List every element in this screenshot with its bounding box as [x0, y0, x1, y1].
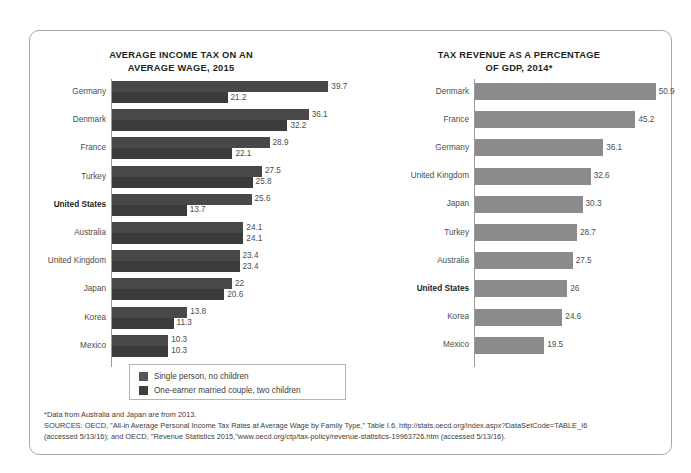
bar — [112, 148, 232, 159]
bar — [475, 224, 577, 241]
plot-area-tax-revenue: Denmark50.9France45.2Germany36.1United K… — [394, 79, 664, 367]
bar — [475, 196, 583, 213]
bar — [112, 278, 232, 289]
bar-value-label: 27.5 — [576, 256, 592, 265]
bar — [475, 83, 656, 100]
category-label: United Kingdom — [394, 171, 469, 180]
category-label: Germany — [394, 143, 469, 152]
chart-title-line-1: AVERAGE INCOME TAX ON AN — [36, 49, 326, 62]
legend-item: One-earner married couple, two children — [139, 384, 345, 397]
bar — [475, 252, 573, 269]
bar — [112, 81, 328, 92]
category-label: Germany — [40, 87, 106, 96]
category-label: France — [394, 115, 469, 124]
bar-value-label: 22.1 — [235, 149, 251, 158]
plot-area-income-tax: Germany39.721.2Denmark36.132.2France28.9… — [40, 79, 360, 367]
category-label: France — [40, 143, 106, 152]
bar — [112, 120, 287, 131]
chart-row: United Kingdom23.423.4 — [40, 250, 360, 272]
bar-value-label: 20.6 — [227, 290, 243, 299]
bar — [475, 168, 591, 185]
category-label: Japan — [394, 199, 469, 208]
bar-value-label: 28.9 — [273, 138, 289, 147]
bar-value-label: 22 — [235, 279, 244, 288]
chart-title-line-2: OF GDP, 2014* — [384, 62, 654, 75]
chart-notes: *Data from Australia and Japan are from … — [44, 409, 661, 442]
chart-title-tax-revenue: TAX REVENUE AS A PERCENTAGE OF GDP, 2014… — [384, 49, 654, 74]
bar-value-label: 24.6 — [565, 312, 581, 321]
bar-value-label: 36.1 — [312, 110, 328, 119]
bar-value-label: 13.8 — [190, 307, 206, 316]
bar-value-label: 36.1 — [606, 143, 622, 152]
bar-value-label: 32.2 — [290, 121, 306, 130]
bar — [475, 139, 603, 156]
chart-row: United States26 — [394, 280, 664, 297]
category-label: Australia — [394, 256, 469, 265]
sources-line-2: (accessed 5/13/16); and OECD, "Revenue S… — [44, 431, 661, 442]
legend-swatch-icon — [139, 386, 148, 395]
bar — [112, 222, 243, 233]
bar-value-label: 10.3 — [171, 346, 187, 355]
legend-item: Single person, no children — [139, 370, 345, 383]
bar — [475, 337, 544, 354]
category-label: Korea — [40, 313, 106, 322]
bar-value-label: 11.3 — [177, 318, 192, 327]
chart-title-line-1: TAX REVENUE AS A PERCENTAGE — [384, 49, 654, 62]
chart-title-income-tax: AVERAGE INCOME TAX ON AN AVERAGE WAGE, 2… — [36, 49, 326, 74]
bar-value-label: 27.5 — [265, 166, 281, 175]
chart-row: Denmark36.132.2 — [40, 109, 360, 131]
bar — [475, 111, 635, 128]
category-label: Denmark — [40, 115, 106, 124]
bar-value-label: 21.2 — [231, 93, 247, 102]
bar-value-label: 23.4 — [243, 262, 259, 271]
chart-row: France28.922.1 — [40, 137, 360, 159]
bar — [112, 137, 270, 148]
bar — [112, 109, 309, 120]
category-label: United Kingdom — [40, 256, 106, 265]
bar — [112, 261, 240, 272]
bar-value-label: 50.9 — [659, 87, 675, 96]
bar — [112, 177, 253, 188]
bar — [112, 205, 187, 216]
bar-value-label: 32.6 — [594, 171, 610, 180]
chart-row: Turkey27.525.8 — [40, 166, 360, 188]
bar — [112, 318, 174, 329]
bar-value-label: 10.3 — [171, 335, 187, 344]
bar-value-label: 19.5 — [547, 340, 563, 349]
chart-row: Germany36.1 — [394, 139, 664, 156]
bar — [112, 166, 262, 177]
chart-row: France45.2 — [394, 111, 664, 128]
bar-value-label: 23.4 — [243, 251, 259, 260]
category-label: Turkey — [40, 172, 106, 181]
legend-item-label: One-earner married couple, two children — [154, 386, 301, 395]
chart-row: Japan30.3 — [394, 196, 664, 213]
bar — [112, 250, 240, 261]
bar-value-label: 26 — [570, 284, 579, 293]
category-label: Australia — [40, 228, 106, 237]
footnote: *Data from Australia and Japan are from … — [44, 409, 661, 420]
chart-row: Germany39.721.2 — [40, 81, 360, 103]
chart-row: Korea13.811.3 — [40, 307, 360, 329]
bar-value-label: 25.6 — [255, 194, 271, 203]
category-label: Mexico — [40, 341, 106, 350]
legend-swatch-icon — [139, 372, 148, 381]
chart-row: Korea24.6 — [394, 309, 664, 326]
chart-row: Australia24.124.1 — [40, 222, 360, 244]
chart-legend: Single person, no children One-earner ma… — [129, 364, 346, 400]
bar-value-label: 25.8 — [256, 177, 272, 186]
figure-frame: AVERAGE INCOME TAX ON AN AVERAGE WAGE, 2… — [29, 30, 672, 455]
bar-value-label: 24.1 — [246, 223, 262, 232]
sources-line-1: SOURCES: OECD, "All-in Average Personal … — [44, 420, 661, 431]
legend-item-label: Single person, no children — [154, 372, 249, 381]
bar — [112, 233, 243, 244]
chart-row: Turkey28.7 — [394, 224, 664, 241]
bar — [475, 309, 562, 326]
bar — [112, 289, 224, 300]
chart-row: United States25.613.7 — [40, 194, 360, 216]
bar-value-label: 39.7 — [331, 82, 347, 91]
category-label: Japan — [40, 284, 106, 293]
bar-value-label: 45.2 — [638, 115, 654, 124]
category-label: Denmark — [394, 87, 469, 96]
bar — [112, 92, 228, 103]
chart-title-line-2: AVERAGE WAGE, 2015 — [36, 62, 326, 75]
